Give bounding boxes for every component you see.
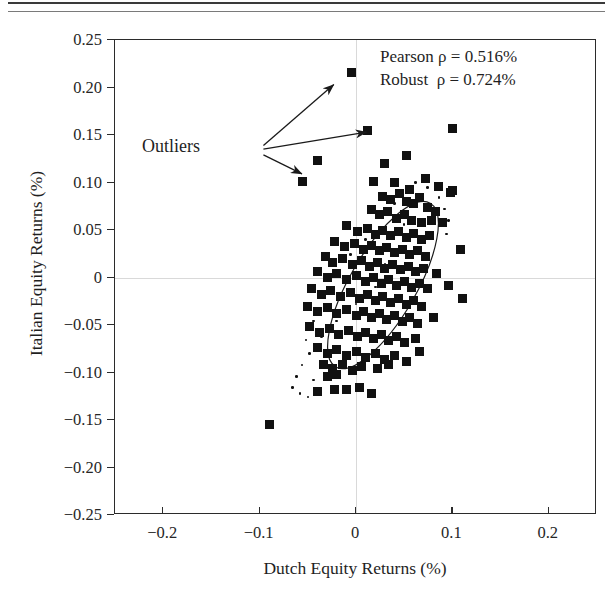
- data-square: [323, 372, 332, 381]
- data-square: [413, 319, 422, 328]
- data-square: [265, 420, 274, 429]
- data-square: [330, 237, 339, 246]
- y-tick-label: −0.20: [22, 458, 102, 478]
- data-square: [342, 221, 351, 230]
- data-square: [338, 254, 347, 263]
- data-square: [336, 292, 345, 301]
- x-tick-label: −0.1: [219, 523, 299, 543]
- data-square: [417, 218, 426, 227]
- data-square: [313, 307, 322, 316]
- data-square: [411, 334, 420, 343]
- data-square: [400, 338, 409, 347]
- data-square: [417, 302, 426, 311]
- pearson-stat: Pearson ρ = 0.516%: [380, 47, 517, 66]
- data-square: [367, 389, 376, 398]
- x-tick-label: 0.1: [411, 523, 491, 543]
- data-square: [357, 362, 366, 371]
- data-square: [340, 242, 349, 251]
- data-square: [319, 360, 328, 369]
- y-axis-tick: [107, 372, 114, 373]
- data-square: [407, 216, 416, 225]
- data-square: [353, 227, 362, 236]
- y-axis-tick: [107, 182, 114, 183]
- data-square: [390, 178, 399, 187]
- data-square: [434, 182, 443, 191]
- data-square: [444, 281, 453, 290]
- data-square: [458, 294, 467, 303]
- data-dot: [447, 219, 450, 222]
- data-square: [342, 385, 351, 394]
- data-dot: [438, 196, 441, 199]
- robust-stat: Robust ρ = 0.724%: [380, 70, 516, 89]
- header-rule-top: [8, 2, 605, 4]
- data-dot: [349, 253, 352, 256]
- y-axis-tick: [107, 87, 114, 88]
- data-dot: [295, 375, 298, 378]
- data-square: [326, 286, 335, 295]
- data-dot: [414, 181, 417, 184]
- x-axis-tick: [162, 507, 163, 514]
- data-square: [448, 124, 457, 133]
- data-square: [323, 303, 332, 312]
- data-square: [427, 216, 436, 225]
- x-axis-tick: [259, 507, 260, 514]
- data-square: [348, 260, 357, 269]
- data-square: [390, 351, 399, 360]
- y-axis-tick: [107, 419, 114, 420]
- data-square: [328, 258, 337, 267]
- figure-root: 0.250.200.150.100.050−0.05−0.10−0.15−0.2…: [0, 0, 613, 609]
- x-tick-label: 0: [315, 523, 395, 543]
- data-dot: [364, 238, 367, 241]
- y-axis-tick: [107, 514, 114, 515]
- data-square: [361, 353, 370, 362]
- data-square: [371, 349, 380, 358]
- data-square: [352, 271, 361, 280]
- data-square: [373, 364, 382, 373]
- data-square: [456, 245, 465, 254]
- data-square: [405, 185, 414, 194]
- data-square: [383, 207, 392, 216]
- data-square: [313, 387, 322, 396]
- data-square: [325, 324, 334, 333]
- x-axis-tick: [355, 507, 356, 514]
- data-square: [332, 269, 341, 278]
- data-square: [332, 309, 341, 318]
- data-square: [313, 343, 322, 352]
- data-square: [352, 347, 361, 356]
- data-dot: [445, 233, 448, 236]
- data-dot: [320, 335, 323, 338]
- data-square: [342, 275, 351, 284]
- x-axis-tick: [451, 507, 452, 514]
- data-square: [305, 322, 314, 331]
- outliers-annotation-label: Outliers: [142, 136, 200, 157]
- data-square: [421, 174, 430, 183]
- data-square: [375, 210, 384, 219]
- data-square: [380, 159, 389, 168]
- data-square: [334, 330, 343, 339]
- y-axis-title: Italian Equity Returns (%): [26, 124, 47, 404]
- y-axis-tick: [107, 277, 114, 278]
- data-square: [313, 156, 322, 165]
- data-square: [421, 252, 430, 261]
- data-square: [355, 383, 364, 392]
- data-square: [448, 186, 457, 195]
- y-axis-tick: [107, 229, 114, 230]
- data-square: [348, 366, 357, 375]
- data-square: [350, 239, 359, 248]
- data-square: [307, 284, 316, 293]
- y-axis-tick: [107, 467, 114, 468]
- data-square: [438, 218, 447, 227]
- data-square: [425, 231, 434, 240]
- data-square: [419, 264, 428, 273]
- y-axis-tick: [107, 134, 114, 135]
- data-square: [402, 151, 411, 160]
- data-square: [303, 302, 312, 311]
- data-square: [317, 290, 326, 299]
- data-dot: [374, 286, 377, 289]
- data-square: [298, 177, 307, 186]
- data-square: [342, 305, 351, 314]
- data-square: [342, 351, 351, 360]
- data-square: [429, 313, 438, 322]
- x-axis-title: Dutch Equity Returns (%): [114, 558, 596, 579]
- data-square: [415, 193, 424, 202]
